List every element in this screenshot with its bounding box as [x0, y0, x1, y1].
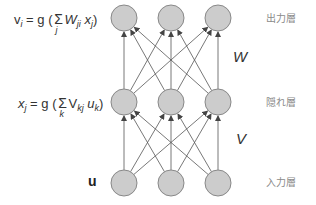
input-node-1: [111, 170, 137, 196]
output-node-1: [111, 5, 137, 31]
sum-symbol: Σj: [53, 12, 65, 26]
hidden-equation: xj = g (ΣkVkj uk): [18, 96, 103, 113]
weight-label-w: W: [233, 49, 247, 64]
output-node-2: [158, 5, 184, 31]
weight-label-v: V: [236, 131, 246, 146]
layer-label-output: 出力層: [266, 14, 296, 24]
output-equation: vi = g (ΣjWji xj): [14, 12, 97, 29]
hidden-node-3: [205, 89, 231, 115]
input-vector-label: u: [88, 174, 97, 188]
input-node-3: [205, 170, 231, 196]
sum-symbol: Σk: [57, 96, 69, 110]
layer-label-input: 入力層: [266, 178, 296, 188]
hidden-node-2: [158, 89, 184, 115]
input-node-2: [158, 170, 184, 196]
layer-label-hidden: 隠れ層: [266, 98, 296, 108]
output-node-3: [205, 5, 231, 31]
hidden-node-1: [111, 89, 137, 115]
